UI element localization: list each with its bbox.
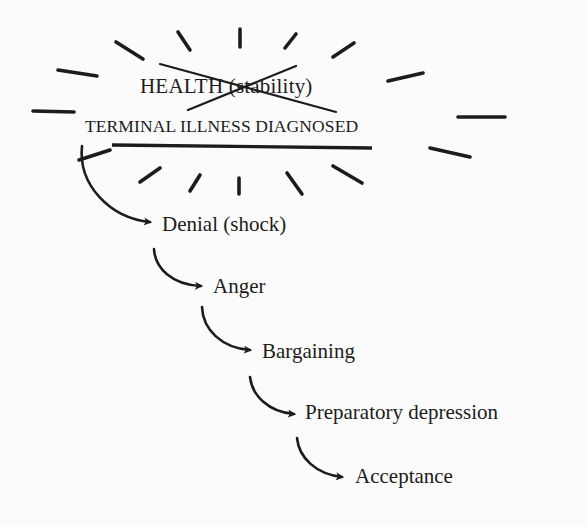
flow-arrows [82, 146, 342, 477]
ray-line [33, 111, 74, 112]
ray-line [333, 166, 362, 183]
diagnosis-underline [112, 145, 372, 148]
ray-line [79, 150, 110, 160]
stage-acceptance: Acceptance [355, 466, 453, 487]
grief-stages-diagram: HEALTH (stability) TERMINAL ILLNESS DIAG… [0, 0, 587, 526]
arrow-to-preparatory-depression [250, 377, 294, 414]
ray-line [178, 32, 190, 50]
ray-line [58, 70, 97, 76]
ray-line [190, 175, 200, 191]
ray-line [116, 42, 143, 59]
arrow-to-acceptance [297, 438, 342, 477]
burst-rays [33, 29, 505, 194]
terminal-illness-label: TERMINAL ILLNESS DIAGNOSED [85, 118, 358, 136]
ray-line [285, 34, 296, 48]
stage-anger: Anger [213, 276, 265, 297]
health-stability-label: HEALTH (stability) [140, 76, 313, 97]
arrow-to-anger [154, 249, 201, 286]
ray-line [430, 148, 470, 157]
ray-line [388, 73, 423, 81]
stage-preparatory-depression: Preparatory depression [305, 402, 498, 423]
ray-line [333, 43, 354, 57]
stage-denial: Denial (shock) [162, 214, 286, 235]
ray-line [287, 173, 302, 194]
stage-bargaining: Bargaining [262, 341, 355, 362]
arrow-to-bargaining [202, 307, 250, 350]
ray-line [140, 168, 160, 182]
